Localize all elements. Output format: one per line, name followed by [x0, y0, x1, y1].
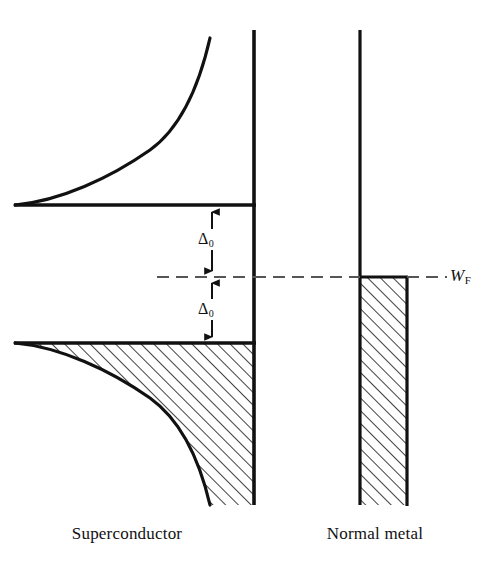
- gap-label-lower-subscript: 0: [208, 308, 214, 319]
- fermi-level-label: WF: [450, 266, 471, 286]
- gap-label-lower: Δ0: [198, 300, 214, 318]
- caption-normal-metal: Normal metal: [300, 524, 450, 544]
- superconductor-occupied-states: [15, 343, 254, 505]
- gap-label-upper-symbol: Δ: [198, 230, 208, 247]
- energy-band-diagram-figure: Δ0 Δ0 WF Superconductor Normal metal: [0, 0, 486, 563]
- fermi-level-subscript: F: [464, 274, 471, 286]
- superconductor-upper-band-edge: [15, 38, 210, 205]
- gap-label-upper-subscript: 0: [208, 238, 214, 249]
- fermi-level-symbol: W: [450, 266, 464, 285]
- gap-label-upper: Δ0: [198, 230, 214, 248]
- gap-label-lower-symbol: Δ: [198, 300, 208, 317]
- caption-superconductor: Superconductor: [0, 524, 254, 544]
- band-diagram-canvas: [0, 0, 486, 563]
- normal-metal-occupied-states: [360, 277, 407, 505]
